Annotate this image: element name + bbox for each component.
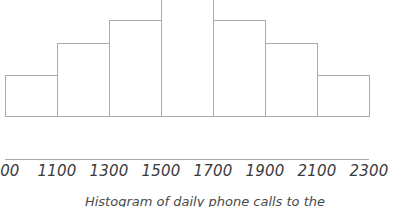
bar-series — [0, 0, 410, 165]
x-tick-label: 2100 — [298, 162, 337, 180]
histogram-bar — [317, 75, 370, 117]
x-tick-label: 1300 — [90, 162, 129, 180]
x-tick-label: 1100 — [38, 162, 77, 180]
histogram-bar — [213, 20, 266, 117]
plot-area: 9001100130015001700190021002300 — [0, 0, 410, 165]
x-axis-tick-labels: 9001100130015001700190021002300 — [0, 162, 410, 186]
histogram-bar — [109, 20, 162, 117]
x-tick-label: 900 — [0, 162, 20, 180]
x-tick-label: 2300 — [350, 162, 389, 180]
x-tick-label: 1500 — [142, 162, 181, 180]
histogram-figure: 9001100130015001700190021002300 Histogra… — [0, 0, 410, 207]
histogram-bar — [5, 75, 58, 117]
figure-caption: Histogram of daily phone calls to the — [0, 194, 410, 207]
histogram-bar — [161, 0, 214, 117]
histogram-bar — [265, 43, 318, 117]
x-axis-line — [5, 159, 369, 160]
x-tick-label: 1900 — [246, 162, 285, 180]
histogram-bar — [57, 43, 110, 117]
x-tick-label: 1700 — [194, 162, 233, 180]
